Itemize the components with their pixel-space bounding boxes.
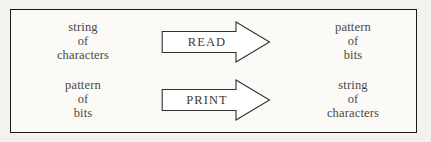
read-output-line-3: bits — [344, 48, 363, 62]
read-output-line-1: pattern — [335, 20, 371, 34]
print-output-label: string of characters — [293, 70, 413, 128]
read-arrow: READ — [161, 20, 271, 64]
print-arrow-label: PRINT — [169, 78, 245, 122]
figure-frame: string of characters READ pattern of bit… — [10, 9, 417, 133]
figure-container: string of characters READ pattern of bit… — [0, 0, 431, 142]
print-output-line-1: string — [338, 78, 367, 92]
read-arrow-label: READ — [169, 20, 245, 64]
print-output-line-2: of — [348, 92, 359, 106]
print-input-line-1: pattern — [65, 78, 101, 92]
read-output-label: pattern of bits — [293, 12, 413, 70]
print-arrow: PRINT — [161, 78, 271, 122]
read-input-label: string of characters — [23, 12, 143, 70]
read-output-line-2: of — [348, 34, 359, 48]
diagram-row-read: string of characters READ pattern of bit… — [11, 12, 418, 70]
read-input-line-1: string — [68, 20, 97, 34]
print-output-line-3: characters — [327, 106, 379, 120]
read-input-line-3: characters — [57, 48, 109, 62]
print-input-line-2: of — [78, 92, 89, 106]
print-input-label: pattern of bits — [23, 70, 143, 128]
print-input-line-3: bits — [74, 106, 93, 120]
diagram-row-print: pattern of bits PRINT string of characte… — [11, 70, 418, 128]
read-input-line-2: of — [78, 34, 89, 48]
